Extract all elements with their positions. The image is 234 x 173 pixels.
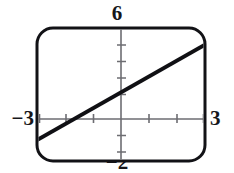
graph-plot-area bbox=[0, 0, 234, 173]
graphing-calculator-screen: 6 −3 3 −2 bbox=[0, 0, 234, 173]
